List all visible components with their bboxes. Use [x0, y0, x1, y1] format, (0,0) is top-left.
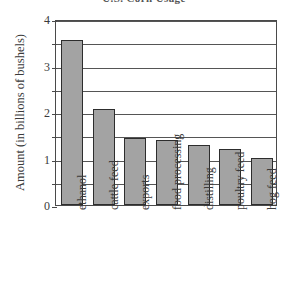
- x-axis-tick-label: distilling: [203, 167, 215, 210]
- x-axis-tick-label: exports: [139, 175, 151, 210]
- x-axis-tick-label: poultry feed: [234, 152, 246, 210]
- y-axis-tick-labels: 01234: [26, 0, 50, 308]
- y-axis-tick-label: 4: [30, 14, 50, 26]
- x-axis-tick-labels: ethanolcattle feedexportsfood processing…: [55, 206, 277, 308]
- y-axis-tick-label: 0: [30, 200, 50, 212]
- y-axis-tick-label: 2: [30, 107, 50, 119]
- x-axis-tick-label: food processing: [171, 134, 183, 210]
- y-axis-tick-label: 3: [30, 61, 50, 73]
- bar-chart-screenshot: U.S. Corn Usage Amount (in billions of b…: [0, 0, 288, 308]
- y-axis-tick-label: 1: [30, 154, 50, 166]
- x-axis-tick-label: hog feed: [266, 168, 278, 210]
- x-axis-tick-label: ethanol: [76, 175, 88, 210]
- x-axis-tick-label: cattle feed: [108, 160, 120, 210]
